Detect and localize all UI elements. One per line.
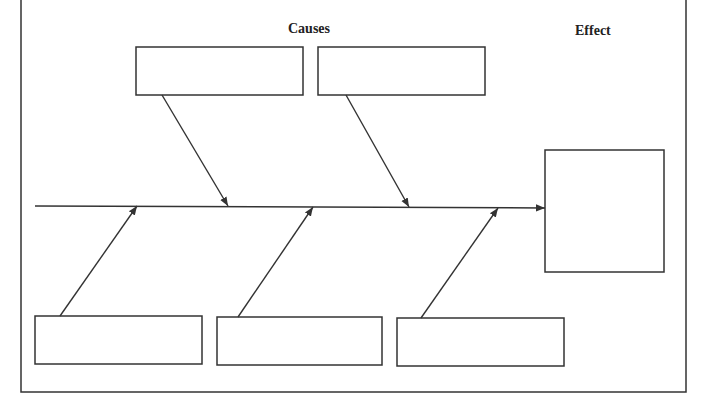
bone-arrow-bottom-3 bbox=[421, 208, 498, 318]
cause-box-top-2[interactable] bbox=[318, 47, 485, 95]
bone-arrow-top-2 bbox=[346, 95, 409, 207]
causes-heading: Causes bbox=[288, 21, 330, 37]
cause-box-top-1[interactable] bbox=[136, 47, 303, 95]
cause-box-bottom-3[interactable] bbox=[397, 318, 564, 366]
bone-arrow-top-1 bbox=[162, 95, 228, 206]
bone-arrow-bottom-2 bbox=[238, 207, 313, 317]
effect-box[interactable] bbox=[545, 150, 664, 272]
cause-box-bottom-1[interactable] bbox=[35, 316, 202, 364]
diagram-canvas bbox=[0, 0, 707, 397]
bone-arrow-bottom-1 bbox=[60, 206, 137, 316]
spine-arrow bbox=[35, 206, 545, 208]
cause-box-bottom-2[interactable] bbox=[217, 317, 382, 365]
effect-heading: Effect bbox=[575, 23, 611, 39]
